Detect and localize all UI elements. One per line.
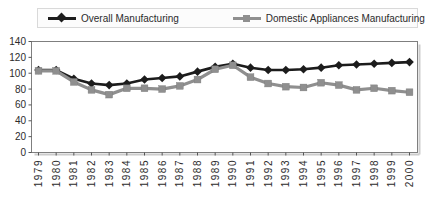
data-point-square-icon	[247, 74, 254, 81]
plot-frame	[32, 42, 418, 153]
x-axis-label: 1986	[157, 159, 168, 187]
x-axis-label: 1996	[333, 159, 344, 187]
data-point-square-icon	[141, 85, 148, 92]
x-axis-label: 1991	[245, 159, 256, 187]
x-axis-label: 1998	[369, 159, 380, 187]
data-point-square-icon	[353, 86, 360, 93]
y-axis-label: 120	[9, 52, 26, 63]
x-axis-label: 1993	[280, 159, 291, 187]
x-axis-label: 1988	[192, 159, 203, 187]
x-axis-label: 1999	[386, 159, 397, 187]
data-point-square-icon	[159, 86, 166, 93]
y-axis-label: 20	[15, 131, 27, 142]
y-axis-label: 0	[20, 147, 26, 158]
x-axis-label: 1979	[33, 159, 44, 187]
x-axis-label: 2000	[404, 159, 415, 187]
line-chart-canvas: Overall Manufacturing Domestic Appliance…	[0, 0, 425, 201]
y-axis-label: 40	[15, 115, 27, 126]
x-axis-label: 1989	[210, 159, 221, 187]
data-point-square-icon	[88, 86, 95, 93]
data-point-square-icon	[388, 87, 395, 94]
x-axis-label: 1985	[139, 159, 150, 187]
plot-area: 0204060801001201401979198019811982198319…	[0, 0, 425, 201]
data-point-square-icon	[212, 66, 219, 73]
x-axis-label: 1984	[121, 159, 132, 187]
data-point-square-icon	[123, 85, 130, 92]
y-axis-label: 60	[15, 99, 27, 110]
data-point-square-icon	[406, 89, 413, 96]
x-axis-label: 1980	[51, 159, 62, 187]
data-point-square-icon	[35, 67, 42, 74]
x-axis-label: 1997	[351, 159, 362, 187]
data-point-square-icon	[176, 83, 183, 90]
x-axis-label: 1987	[174, 159, 185, 187]
data-point-square-icon	[300, 84, 307, 91]
data-point-square-icon	[265, 80, 272, 87]
y-axis-label: 100	[9, 68, 26, 79]
data-point-square-icon	[194, 76, 201, 83]
data-point-square-icon	[318, 79, 325, 86]
data-point-square-icon	[371, 85, 378, 92]
y-axis-label: 80	[15, 84, 27, 95]
data-point-square-icon	[53, 67, 60, 74]
y-axis-label: 140	[9, 36, 26, 47]
data-point-square-icon	[229, 62, 236, 69]
data-point-square-icon	[335, 82, 342, 89]
x-axis-label: 1990	[227, 159, 238, 187]
x-axis-label: 1982	[86, 159, 97, 187]
x-axis-label: 1981	[68, 159, 79, 187]
data-point-square-icon	[106, 91, 113, 98]
x-axis-label: 1992	[263, 159, 274, 187]
x-axis-label: 1994	[298, 159, 309, 187]
x-axis-label: 1983	[104, 159, 115, 187]
data-point-square-icon	[70, 79, 77, 86]
data-point-square-icon	[282, 83, 289, 90]
x-axis-label: 1995	[316, 159, 327, 187]
